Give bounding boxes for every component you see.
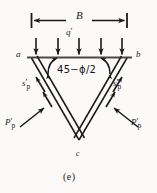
surcharge-symbol: q (66, 27, 71, 37)
shear-force-label-right: s′p (113, 79, 122, 88)
shear-force-label-left: s′p (22, 79, 31, 88)
corner-label-b: b (136, 50, 141, 59)
shear-symbol-right: s (113, 78, 117, 88)
passive-symbol-right: P (131, 117, 137, 127)
surcharge-arrows (36, 38, 122, 55)
passive-subscript-right: p (137, 121, 141, 130)
passive-force-label-right: P′p (131, 118, 142, 127)
passive-symbol-left: P (5, 117, 11, 127)
corner-label-a: a (16, 50, 21, 59)
shear-subscript-right: p (117, 82, 121, 91)
angle-label: 45−ϕ/2 (57, 65, 96, 75)
angle-arc-left (48, 58, 57, 74)
figure-caption: (e) (63, 172, 76, 182)
apex-label-c: c (76, 150, 80, 158)
surcharge-prime: ′ (71, 26, 73, 36)
passive-subscript-left: p (11, 121, 15, 130)
passive-arrow-left (20, 108, 44, 127)
surcharge-label-q: q′ (66, 28, 72, 37)
wedge-diagram-svg (0, 0, 157, 193)
shear-arrow-left-2 (43, 92, 52, 107)
figure-container: B q′ a b 45−ϕ/2 s′p s′p P′p P′p c (e) (0, 0, 157, 193)
passive-force-arrows (20, 108, 138, 127)
shear-subscript-left: p (26, 82, 30, 91)
shear-arrow-right-2 (106, 92, 115, 107)
shear-force-arrows (36, 77, 122, 107)
angle-arc-right (101, 58, 110, 74)
shear-symbol-left: s (22, 78, 26, 88)
dimension-label-b: B (76, 10, 83, 21)
passive-force-label-left: P′p (5, 118, 16, 127)
